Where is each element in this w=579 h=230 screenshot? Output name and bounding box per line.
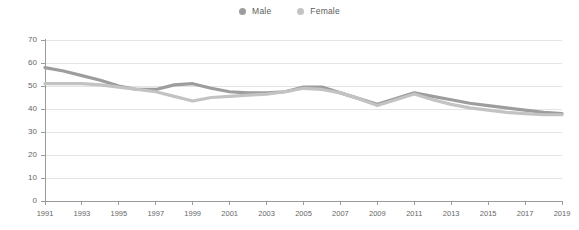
y-tick-label: 70 (28, 35, 37, 44)
x-tick-label: 2013 (443, 209, 460, 218)
x-tick-label: 2003 (258, 209, 275, 218)
series-line-male (45, 68, 562, 114)
x-tick-label: 2019 (554, 209, 571, 218)
x-tick-label: 1991 (37, 209, 54, 218)
series-line-female (45, 84, 562, 115)
data-series (45, 68, 562, 115)
x-tick-label: 1993 (74, 209, 91, 218)
line-chart: Male Female 010203040506070 199119931995… (0, 0, 579, 230)
gridlines (45, 40, 562, 201)
x-tick-label: 2007 (332, 209, 349, 218)
y-tick-label: 0 (33, 196, 38, 205)
x-tick-label: 1999 (184, 209, 201, 218)
y-tick-label: 60 (28, 58, 37, 67)
y-tick-label: 20 (28, 150, 37, 159)
x-tick-label: 2009 (369, 209, 386, 218)
y-tick-label: 40 (28, 104, 37, 113)
y-tick-label: 30 (28, 127, 37, 136)
y-tick-label: 50 (28, 81, 37, 90)
x-tick-label: 2011 (406, 209, 422, 218)
x-tick-label: 1997 (147, 209, 164, 218)
plot-area: 010203040506070 199119931995199719992001… (0, 0, 579, 230)
y-tick-label: 10 (28, 173, 37, 182)
x-tick-label: 2015 (480, 209, 497, 218)
x-tick-label: 2005 (295, 209, 312, 218)
x-tick-label: 2001 (221, 209, 238, 218)
x-tick-label: 1995 (111, 209, 128, 218)
x-axis: 1991199319951997199920012003200520072009… (37, 201, 571, 218)
x-tick-label: 2017 (517, 209, 534, 218)
chart-canvas: 010203040506070 199119931995199719992001… (0, 0, 579, 230)
y-axis: 010203040506070 (28, 35, 45, 205)
